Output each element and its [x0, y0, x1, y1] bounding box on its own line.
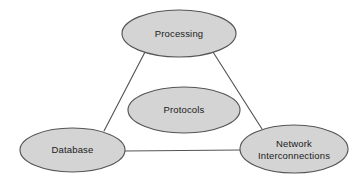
- concept-diagram: Processing Protocols Database Network In…: [0, 0, 360, 183]
- node-processing[interactable]: Processing: [122, 10, 236, 57]
- node-processing-label: Processing: [155, 28, 204, 39]
- node-database-label: Database: [52, 144, 94, 155]
- node-database[interactable]: Database: [20, 128, 125, 172]
- diagram-canvas: Processing Protocols Database Network In…: [0, 0, 360, 183]
- node-network-interconnections-shape[interactable]: [240, 125, 348, 173]
- node-network-interconnections-label-line2: Interconnections: [258, 150, 330, 161]
- node-protocols[interactable]: Protocols: [128, 87, 240, 133]
- node-network-interconnections[interactable]: Network Interconnections: [240, 125, 348, 173]
- node-network-interconnections-label-line1: Network: [276, 138, 312, 149]
- edge-database-network: [124, 150, 241, 151]
- node-protocols-label: Protocols: [164, 104, 205, 115]
